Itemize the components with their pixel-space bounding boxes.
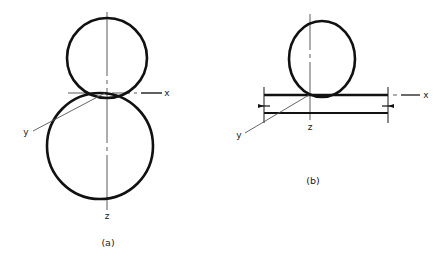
panel-b-x-label: x (423, 90, 429, 100)
sphere-circle-b (289, 21, 355, 97)
panel-a-caption: (a) (101, 237, 114, 248)
panel-b-caption: (b) (306, 175, 319, 186)
lower-sphere-circle (47, 93, 153, 199)
panel-a: x y z (a) (23, 12, 170, 248)
panel-a-y-axis (33, 93, 105, 131)
figure-canvas: x y z (a) (0, 0, 448, 264)
panel-a-z-label: z (105, 211, 110, 221)
panel-a-y-label: y (23, 127, 29, 137)
panel-b-y-label: y (236, 130, 242, 140)
panel-b: x y z (b) (236, 14, 429, 186)
technical-figure: x y z (a) (0, 0, 448, 264)
panel-a-x-label: x (164, 88, 170, 98)
panel-b-z-label: z (308, 122, 313, 132)
